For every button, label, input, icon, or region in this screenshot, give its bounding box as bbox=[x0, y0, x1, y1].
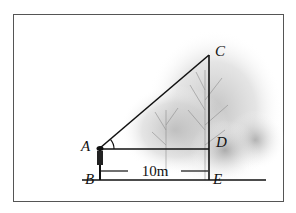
label-C: C bbox=[215, 43, 226, 59]
geometry-diagram: 10m A B C D E bbox=[0, 0, 296, 213]
label-A: A bbox=[80, 138, 91, 154]
label-E: E bbox=[212, 171, 222, 187]
label-D: D bbox=[215, 134, 227, 150]
dimension-label: 10m bbox=[142, 163, 169, 179]
label-B: B bbox=[85, 171, 94, 187]
